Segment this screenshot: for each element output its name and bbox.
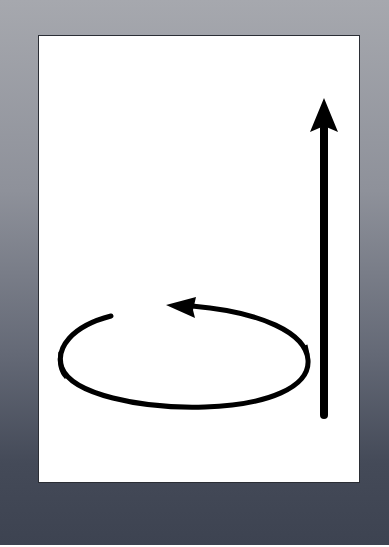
straight-arrow-icon [310,98,338,415]
circular-arrow-icon [59,297,308,407]
diagram-canvas [0,0,389,547]
